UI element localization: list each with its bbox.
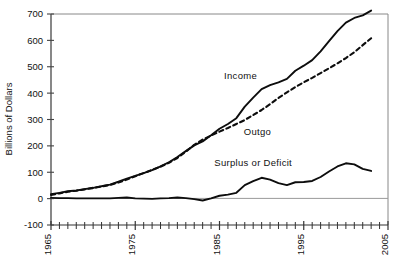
y-tick-label: 600 [27,35,43,46]
annotation-outgo: Outgo [244,126,271,137]
y-tick-label: 500 [27,61,43,72]
x-axis-labels: 19651975198519952005 [42,234,390,255]
y-tick-label: 300 [27,114,43,125]
annotation-surplus-or-deficit: Surplus or Deficit [214,157,292,168]
y-tick-label: 0 [38,193,43,204]
x-axis-ticks [51,221,388,230]
y-axis: -1000100200300400500600700 [24,8,54,230]
chart-figure: -1000100200300400500600700 1965197519851… [0,0,410,266]
annotation-income: Income [224,70,257,81]
y-tick-label: 700 [27,8,43,19]
line-chart: -1000100200300400500600700 1965197519851… [0,0,410,266]
x-tick-label: 1995 [295,234,306,255]
x-tick-label: 2005 [379,234,390,255]
plot-background [51,14,388,225]
x-tick-label: 1965 [42,234,53,255]
y-axis-title: Billions of Dollars [3,82,14,155]
y-tick-label: 200 [27,140,43,151]
y-tick-label: 400 [27,88,43,99]
y-tick-label: -100 [24,219,43,230]
y-tick-label: 100 [27,167,43,178]
x-tick-label: 1975 [126,234,137,255]
x-tick-label: 1985 [211,234,222,255]
